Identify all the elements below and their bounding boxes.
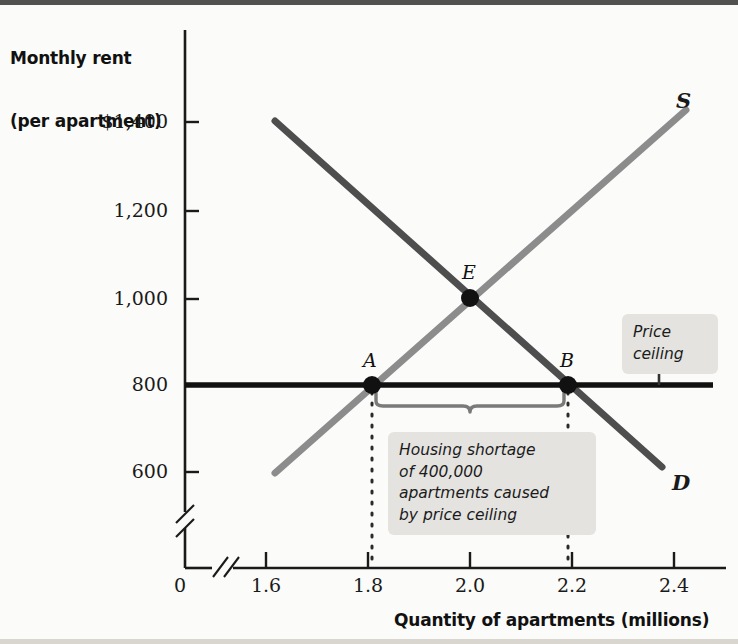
y-tick-label-1200: 1,200 [58,199,168,221]
figure-page: Monthly rent (per apartment) Quantity of… [0,0,738,644]
y-axis-title: Monthly rent (per apartment) [10,6,162,174]
demand-curve-label: D [672,470,690,495]
point-a-label: A [363,349,377,371]
x-tick-label-0: 0 [150,574,210,596]
y-tick-label-600: 600 [58,460,168,482]
y-tick-label-800: 800 [58,373,168,395]
point-a-marker [363,376,381,394]
x-tick-label-2-2: 2.2 [542,574,602,596]
x-axis-title: Quantity of apartments (millions) [394,610,709,631]
point-b-marker [559,376,577,394]
housing-shortage-annotation: Housing shortage of 400,000 apartments c… [388,432,596,535]
price-ceiling-annotation: Price ceiling [622,314,718,374]
point-e-marker [461,289,479,307]
x-tick-label-1-8: 1.8 [338,574,398,596]
y-tick-label-1400: $1,400 [58,110,168,132]
x-tick-label-1-6: 1.6 [236,574,296,596]
point-e-label: E [462,261,476,283]
supply-curve-label: S [676,88,691,113]
shortage-brace [376,392,564,412]
y-axis-title-line1: Monthly rent [10,48,162,69]
y-tick-label-1000: 1,000 [58,287,168,309]
supply-curve [275,110,686,473]
x-tick-label-2-4: 2.4 [644,574,704,596]
x-tick-label-2-0: 2.0 [440,574,500,596]
point-b-label: B [560,349,574,371]
